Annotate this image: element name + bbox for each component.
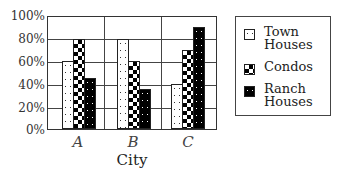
bar-ranch-houses-b bbox=[139, 89, 151, 129]
x-axis-title: City bbox=[117, 151, 148, 169]
plot-area bbox=[47, 16, 217, 130]
legend-label-line: Houses bbox=[264, 95, 324, 108]
y-tick-label: 20% bbox=[0, 101, 45, 115]
x-category-label: A bbox=[73, 133, 84, 151]
legend: Town Houses Condos Ranch Houses bbox=[235, 16, 331, 116]
legend-label-line: Condos bbox=[264, 60, 324, 73]
checkerboard-swatch-icon bbox=[244, 64, 255, 75]
legend-label: Town Houses bbox=[264, 25, 324, 51]
bar-ranch-houses-a bbox=[84, 78, 96, 129]
legend-item-ranch-houses: Ranch Houses bbox=[244, 82, 324, 108]
legend-item-town-houses: Town Houses bbox=[244, 25, 324, 51]
dotted-white-swatch-icon bbox=[244, 29, 255, 40]
legend-label: Ranch Houses bbox=[264, 82, 324, 108]
x-category-label: B bbox=[127, 133, 138, 151]
y-tick-label: 80% bbox=[0, 32, 45, 46]
y-tick-label: 100% bbox=[0, 9, 45, 23]
y-tick-label: 40% bbox=[0, 78, 45, 92]
legend-label: Condos bbox=[264, 60, 324, 73]
x-category-label: C bbox=[182, 133, 193, 151]
group-divider bbox=[104, 17, 105, 129]
y-tick-label: 60% bbox=[0, 55, 45, 69]
group-divider bbox=[161, 17, 162, 129]
bar-ranch-houses-c bbox=[193, 27, 205, 129]
y-tick-label: 0% bbox=[0, 123, 45, 137]
dotted-black-swatch-icon bbox=[244, 86, 255, 97]
legend-label-line: Houses bbox=[264, 38, 324, 51]
legend-item-condos: Condos bbox=[244, 60, 324, 75]
